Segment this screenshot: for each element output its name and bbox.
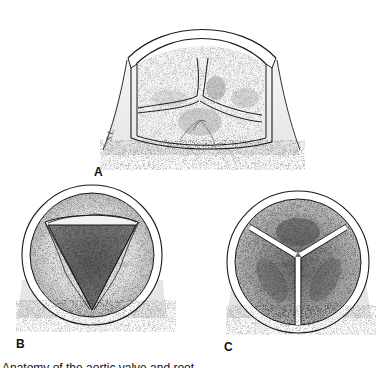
panel-label-b: B	[16, 337, 25, 351]
panel-a-illustration	[100, 30, 305, 171]
panel-b-illustration	[16, 185, 176, 332]
panel-label-c: C	[224, 340, 233, 354]
panel-label-a: A	[94, 165, 103, 179]
figure-canvas	[0, 0, 389, 368]
figure-caption-clipped: Anatomy of the aortic valve and root ...	[2, 360, 389, 368]
panel-c-illustration	[226, 191, 376, 335]
